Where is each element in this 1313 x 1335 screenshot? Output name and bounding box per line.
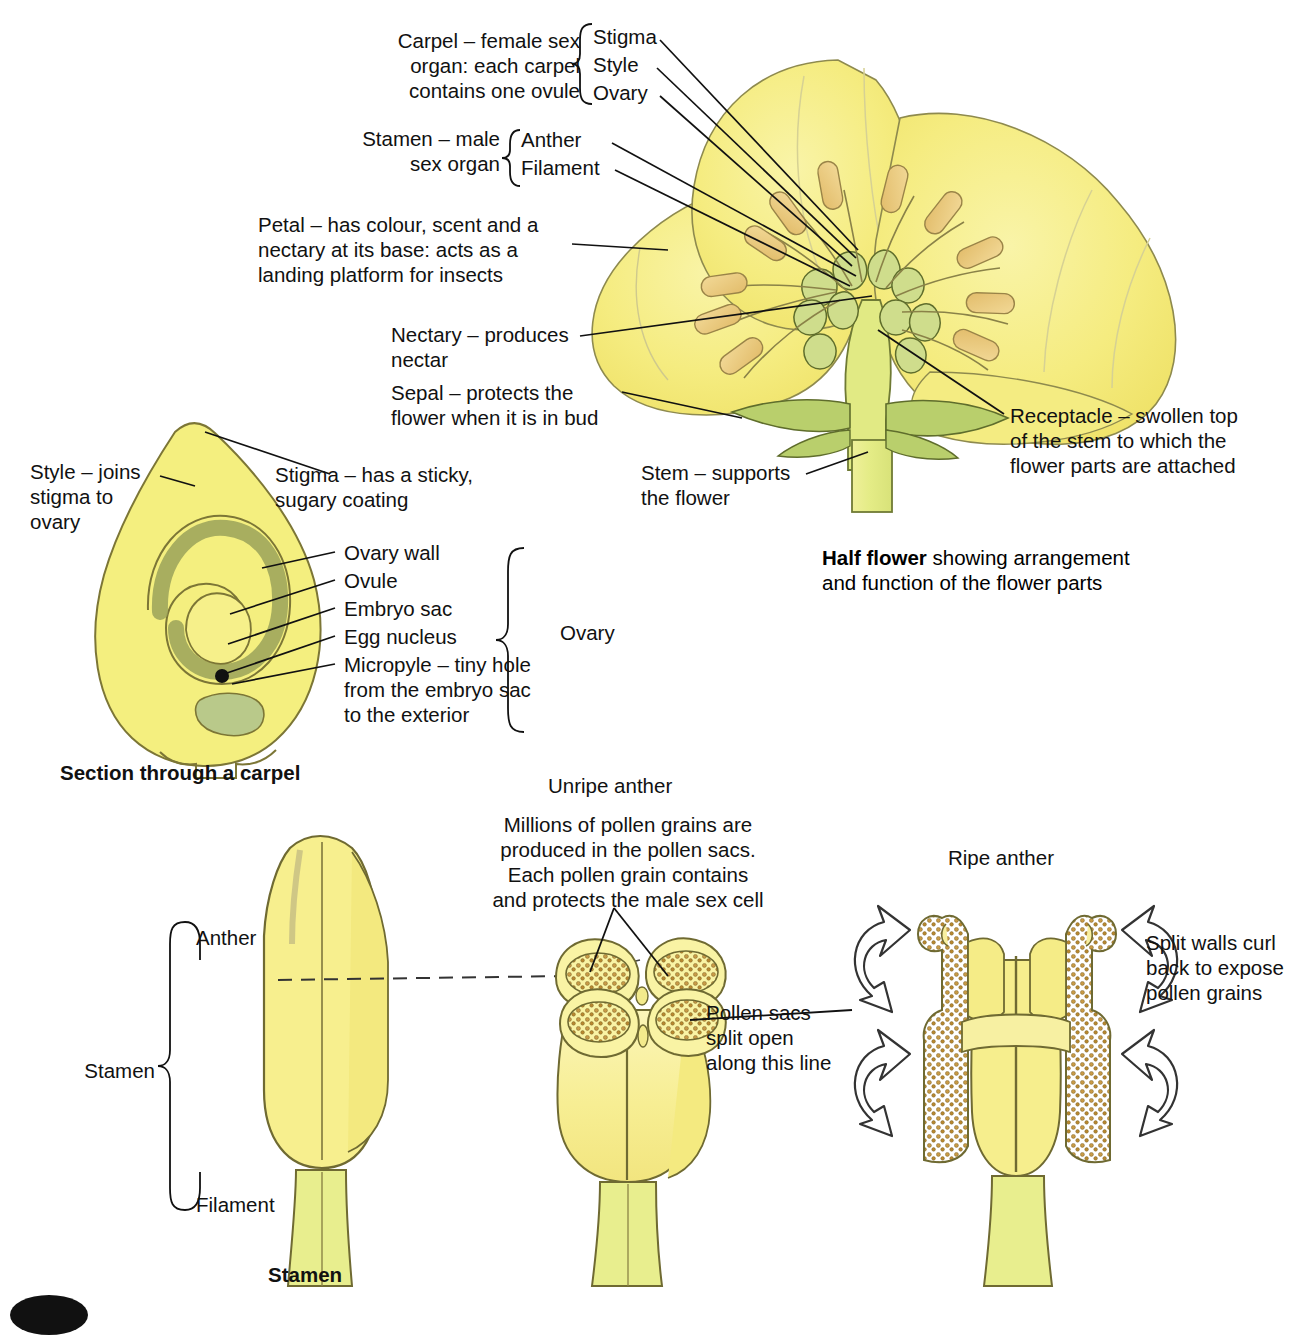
caption-carpel-section: Section through a carpel bbox=[60, 760, 300, 785]
label-stamen-filament: Filament bbox=[521, 155, 600, 180]
label-petal: Petal – has colour, scent and a nectary … bbox=[258, 212, 588, 287]
label-filament-bracket: Filament bbox=[196, 1192, 275, 1217]
label-stamen-anther: Anther bbox=[521, 127, 581, 152]
caption-half-flower-rest: showing arrangement bbox=[927, 546, 1130, 569]
label-stamen: Stamen – male sex organ bbox=[275, 126, 500, 176]
label-embryo-sac: Embryo sac bbox=[344, 596, 452, 621]
label-carpel-style: Style bbox=[593, 52, 639, 77]
label-ovary-brace: Ovary bbox=[560, 620, 615, 645]
label-sepal: Sepal – protects the flower when it is i… bbox=[391, 380, 616, 430]
label-egg-nucleus: Egg nucleus bbox=[344, 624, 457, 649]
label-split-walls: Split walls curl back to expose pollen g… bbox=[1146, 930, 1313, 1005]
label-carpel-stigma: Stigma bbox=[593, 24, 657, 49]
text-unripe-anther-body: Millions of pollen grains are produced i… bbox=[478, 812, 778, 912]
label-stigma: Stigma – has a sticky, sugary coating bbox=[275, 462, 505, 512]
caption-half-flower: Half flower showing arrangement and func… bbox=[822, 545, 1242, 595]
caption-half-flower-line2: and function of the flower parts bbox=[822, 571, 1102, 594]
caption-stamen: Stamen bbox=[268, 1262, 342, 1287]
title-ripe-anther: Ripe anther bbox=[948, 845, 1054, 870]
label-ovary-wall: Ovary wall bbox=[344, 540, 440, 565]
unripe-anther-illustration bbox=[556, 908, 852, 1286]
label-anther-bracket: Anther bbox=[196, 925, 256, 950]
title-unripe-anther: Unripe anther bbox=[548, 773, 672, 798]
label-micropyle: Micropyle – tiny hole from the embryo sa… bbox=[344, 652, 544, 727]
label-ovule: Ovule bbox=[344, 568, 398, 593]
label-receptacle: Receptacle – swollen top of the stem to … bbox=[1010, 403, 1300, 478]
label-carpel: Carpel – female sex organ: each carpel c… bbox=[345, 28, 580, 103]
caption-half-flower-bold: Half flower bbox=[822, 546, 927, 569]
ripe-anther-illustration bbox=[855, 906, 1177, 1286]
label-style: Style – joins stigma to ovary bbox=[30, 459, 160, 534]
label-pollen-sacs: Pollen sacs split open along this line bbox=[706, 1000, 866, 1075]
page-marker-fragment bbox=[10, 1295, 88, 1335]
label-stamen-bracket: Stamen bbox=[55, 1058, 155, 1083]
label-carpel-ovary: Ovary bbox=[593, 80, 648, 105]
label-stem: Stem – supports the flower bbox=[641, 460, 811, 510]
label-nectary: Nectary – produces nectar bbox=[391, 322, 591, 372]
